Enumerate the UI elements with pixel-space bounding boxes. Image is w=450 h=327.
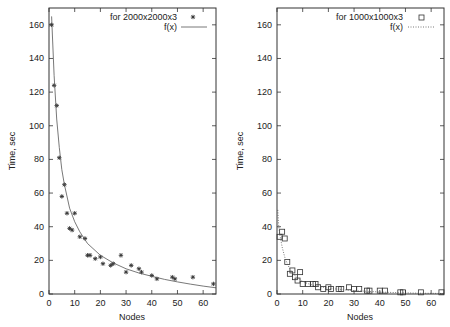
x-tick-label: 40 [147,298,157,308]
left-plot-frame [49,8,216,294]
x-tick-label: 20 [95,298,105,308]
y-tick-label: 40 [262,222,272,232]
data-point-asterisk [55,103,59,107]
y-tick-label: 140 [29,53,44,63]
right-x-axis-title: Nodes [347,312,374,322]
data-point-asterisk [65,211,69,215]
left-legend-fit-label: f(x) [164,22,177,32]
y-tick-label: 0 [39,289,44,299]
data-point-square [285,260,290,265]
left-x-axis-title: Nodes [119,312,146,322]
right-chart-panel: 0102030405060020406080100120140160 Nodes… [235,8,444,322]
right-legend-fit-label: f(x) [390,22,403,32]
data-point-asterisk [211,282,215,286]
right-plot-data [277,210,444,295]
right-legend: for 1000x1000x3 f(x) [336,12,434,32]
x-tick-label: 50 [400,298,410,308]
y-tick-label: 0 [267,289,272,299]
x-tick-label: 0 [274,298,279,308]
data-point-square [305,281,310,286]
y-tick-label: 140 [257,53,272,63]
left-legend-data-label: for 2000x2000x3 [110,12,177,22]
data-point-square [346,285,351,290]
x-tick-label: 60 [198,298,208,308]
left-plot-data [49,16,216,287]
figure: 0102030405060020406080100120140160 Nodes… [0,0,450,327]
y-tick-label: 160 [257,20,272,30]
data-point-asterisk [124,270,128,274]
y-tick-label: 120 [29,87,44,97]
y-tick-label: 80 [262,154,272,164]
data-point-asterisk [119,253,123,257]
y-tick-label: 40 [34,222,44,232]
x-tick-label: 10 [70,298,80,308]
left-chart-panel: 0102030405060020406080100120140160 Nodes… [7,8,216,322]
y-tick-label: 160 [29,20,44,30]
data-point-asterisk [129,263,133,267]
data-point-asterisk [137,267,141,271]
data-point-square [280,229,285,234]
left-y-axis-title: Time, sec [7,131,17,170]
x-tick-label: 20 [323,298,333,308]
data-point-asterisk [72,211,76,215]
right-y-axis-title: Time, sec [235,131,245,170]
x-tick-label: 10 [298,298,308,308]
y-tick-label: 20 [262,255,272,265]
right-plot-frame [277,8,444,294]
y-tick-label: 60 [262,188,272,198]
fit-curve-dotted [278,210,444,294]
y-tick-label: 80 [34,154,44,164]
fit-curve-solid [52,16,216,287]
y-tick-label: 100 [29,121,44,131]
open-square-marker-icon [419,15,424,20]
asterisk-marker-icon [191,15,195,19]
right-legend-data-label: for 1000x1000x3 [336,12,403,22]
data-point-asterisk [93,256,97,260]
data-point-asterisk [60,194,64,198]
data-point-asterisk [52,83,56,87]
y-tick-label: 100 [257,121,272,131]
data-point-asterisk [101,262,105,266]
x-tick-label: 50 [172,298,182,308]
x-tick-label: 40 [375,298,385,308]
y-tick-label: 120 [257,87,272,97]
y-tick-label: 60 [34,188,44,198]
data-point-square [282,236,287,241]
data-point-asterisk [88,253,92,257]
x-tick-label: 30 [121,298,131,308]
x-tick-label: 0 [46,298,51,308]
data-point-asterisk [173,277,177,281]
y-tick-label: 20 [34,255,44,265]
x-tick-label: 30 [349,298,359,308]
data-point-asterisk [191,275,195,279]
left-axis-ticks: 0102030405060020406080100120140160 [29,8,216,308]
data-point-asterisk [78,235,82,239]
data-point-square [298,270,303,275]
left-legend: for 2000x2000x3 f(x) [110,12,207,32]
data-point-asterisk [70,228,74,232]
x-tick-label: 60 [426,298,436,308]
